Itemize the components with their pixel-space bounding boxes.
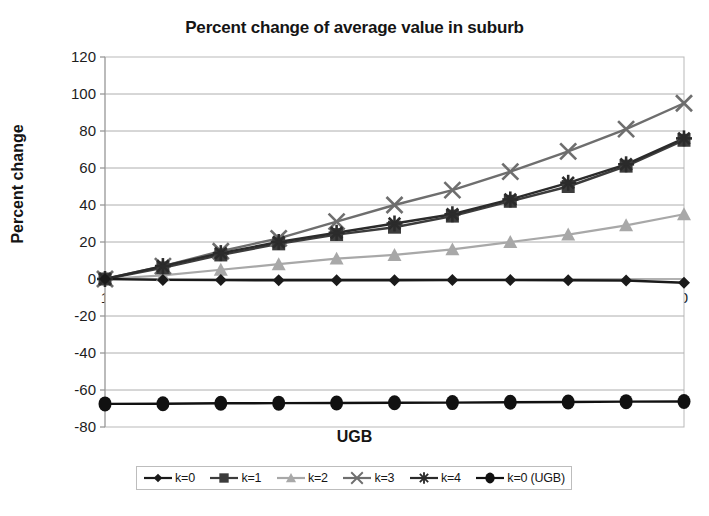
legend-item-k-1[interactable]: k=1 (209, 471, 261, 485)
legend-marker-triangle-icon (276, 471, 306, 485)
page-body-text-fragment (0, 503, 709, 516)
marker-circle (156, 396, 169, 411)
legend-item-k-0-ugb-[interactable]: k=0 (UGB) (475, 471, 565, 485)
legend-item-k-4[interactable]: k=4 (409, 471, 461, 485)
marker-circle (99, 396, 112, 411)
legend-label: k=2 (308, 471, 328, 485)
legend-marker-diamond-icon (143, 471, 173, 485)
marker-diamond (154, 474, 163, 483)
legend-marker-circle-icon (475, 471, 505, 485)
chart-container: Percent change of average value in subur… (0, 0, 709, 516)
legend-label: k=0 (UGB) (507, 471, 565, 485)
marker-circle (504, 395, 517, 410)
marker-circle (562, 395, 575, 410)
marker-circle (446, 395, 459, 410)
legend-item-k-0[interactable]: k=0 (143, 471, 195, 485)
legend-item-k-2[interactable]: k=2 (276, 471, 328, 485)
legend-marker-glyph (209, 471, 239, 485)
marker-circle (214, 396, 227, 411)
marker-circle (330, 395, 343, 410)
legend-item-k-3[interactable]: k=3 (342, 471, 394, 485)
chart-legend: k=0k=1k=2k=3k=4k=0 (UGB) (136, 466, 572, 490)
marker-circle (486, 473, 495, 484)
marker-circle (388, 395, 401, 410)
legend-label: k=3 (374, 471, 394, 485)
legend-label: k=1 (241, 471, 261, 485)
legend-marker-square-icon (209, 471, 239, 485)
marker-circle (620, 394, 633, 409)
legend-label: k=0 (175, 471, 195, 485)
marker-circle (678, 394, 691, 409)
legend-marker-glyph (143, 471, 173, 485)
legend-label: k=4 (441, 471, 461, 485)
legend-marker-cross-x-icon (342, 471, 372, 485)
legend-marker-asterisk-icon (409, 471, 439, 485)
marker-circle (272, 396, 285, 411)
legend-marker-glyph (276, 471, 306, 485)
plot-area (0, 0, 709, 516)
legend-marker-glyph (342, 471, 372, 485)
marker-square (220, 473, 229, 482)
legend-marker-glyph (409, 471, 439, 485)
legend-marker-glyph (475, 471, 505, 485)
